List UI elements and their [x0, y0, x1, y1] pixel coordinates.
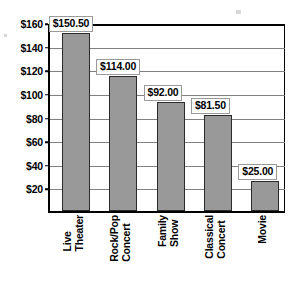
y-axis-tick-label: $100	[20, 89, 43, 101]
y-axis-tick-label: $40	[26, 160, 43, 172]
bar-value-label: $114.00	[96, 59, 140, 75]
y-axis-tick-label: $80	[26, 113, 43, 125]
bar-value-label: $25.00	[238, 164, 277, 180]
bar-value-label: $150.50	[49, 16, 94, 32]
plot-right-edge	[284, 24, 286, 211]
bar	[204, 115, 232, 211]
y-axis-tick-label: $120	[20, 65, 43, 77]
bar	[62, 33, 90, 211]
x-axis-category-labels: LiveTheaterRock/PopConcertFamilyShowClas…	[48, 215, 285, 281]
y-axis-tick-label: $20	[26, 183, 43, 195]
x-axis-category-label: FamilyShow	[157, 215, 181, 247]
plot-area: $150.50$114.00$92.00$81.50$25.00	[48, 24, 285, 213]
bar-value-label: $92.00	[144, 85, 183, 101]
x-axis-category-label: Movie	[257, 215, 269, 244]
y-axis-tick-labels: $160$140$120$100$80$60$40$20	[0, 24, 45, 213]
bar	[251, 181, 279, 211]
y-axis-tick-label: $140	[20, 42, 43, 54]
bar	[157, 102, 185, 211]
bar-value-label: $81.50	[191, 98, 230, 114]
bar-chart: $160$140$120$100$80$60$40$20 $150.50$114…	[0, 0, 300, 281]
scan-speck	[236, 10, 241, 14]
y-axis-tick-label: $160	[20, 18, 43, 30]
x-axis-category-label: Rock/PopConcert	[109, 215, 133, 262]
y-axis-tick-label: $60	[26, 136, 43, 148]
bar	[109, 76, 137, 211]
x-axis-category-label: LiveTheater	[62, 215, 86, 252]
x-axis-category-label: ClassicalConcert	[204, 215, 228, 259]
scan-speck	[4, 34, 7, 37]
